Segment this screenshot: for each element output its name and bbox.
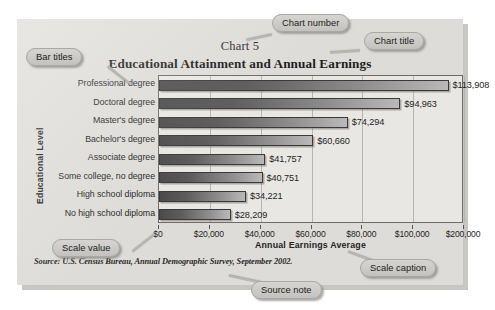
bar-row[interactable]: $40,751 — [159, 169, 299, 188]
bar[interactable] — [159, 191, 246, 202]
category-label: Master's degree — [45, 115, 155, 125]
category-label: High school diploma — [45, 189, 155, 199]
bar[interactable] — [159, 209, 231, 220]
bar-value-label: $41,757 — [269, 154, 302, 164]
x-tick-label: $100,000 — [395, 229, 430, 239]
source-note: Source: U.S. Census Bureau, Annual Demog… — [34, 257, 292, 266]
bar[interactable] — [159, 172, 263, 183]
chart-title: Educational Attainment and Annual Earnin… — [17, 56, 463, 72]
x-tick-label: $60,000 — [295, 229, 325, 239]
bar-row[interactable]: $113,908 — [159, 76, 489, 95]
bar-row[interactable]: $74,294 — [159, 113, 384, 132]
bar-row[interactable]: $41,757 — [159, 150, 302, 169]
callout-chart-title: Chart title — [364, 32, 424, 50]
bar[interactable] — [159, 117, 348, 128]
callout-scale-caption: Scale caption — [360, 259, 436, 277]
bar-value-label: $40,751 — [267, 173, 300, 183]
category-label: Professional degree — [45, 78, 155, 88]
category-label: Associate degree — [45, 152, 155, 162]
x-axis-title: Annual Earnings Average — [158, 240, 463, 250]
category-label: No high school diploma — [45, 208, 155, 218]
bar-value-label: $74,294 — [352, 117, 385, 127]
bar-row[interactable]: $34,221 — [159, 187, 282, 206]
bar-series: $113,908$94,963$74,294$60,660$41,757$40,… — [159, 76, 462, 222]
gridline — [464, 76, 465, 222]
plot-area: $113,908$94,963$74,294$60,660$41,757$40,… — [158, 75, 463, 223]
category-label: Some college, no degree — [45, 171, 155, 181]
x-tick-label: $200,000 — [446, 229, 481, 239]
bar[interactable] — [159, 154, 265, 165]
bar[interactable] — [159, 135, 313, 146]
x-tick-label: $80,000 — [346, 229, 376, 239]
bar[interactable] — [159, 98, 400, 109]
x-axis-ticks: $0$20,000$40,000$60,000$80,000$100,000$2… — [158, 225, 463, 239]
callout-chart-number: Chart number — [272, 14, 349, 32]
bar-value-label: $60,660 — [317, 136, 350, 146]
x-tick-label: $40,000 — [245, 229, 275, 239]
callout-source-note: Source note — [251, 281, 322, 299]
bar-value-label: $113,908 — [453, 80, 490, 90]
callout-bar-titles: Bar titles — [26, 48, 82, 66]
bar-value-label: $28,209 — [235, 210, 268, 220]
category-label: Doctoral degree — [45, 97, 155, 107]
bar-row[interactable]: $28,209 — [159, 206, 267, 225]
category-label-list: Professional degreeDoctoral degreeMaster… — [45, 75, 155, 223]
bar-row[interactable]: $60,660 — [159, 132, 350, 151]
bar[interactable] — [159, 80, 449, 91]
bar-row[interactable]: $94,963 — [159, 95, 437, 114]
bar-value-label: $34,221 — [250, 191, 283, 201]
bar-value-label: $94,963 — [404, 99, 437, 109]
callout-scale-value: Scale value — [52, 239, 120, 257]
x-tick-label: $20,000 — [194, 229, 224, 239]
category-label: Bachelor's degree — [45, 134, 155, 144]
